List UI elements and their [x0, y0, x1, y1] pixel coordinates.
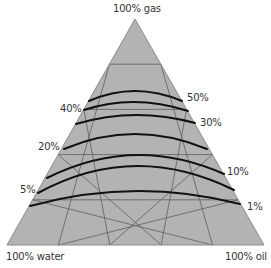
vertex-label-oil: 100% oil	[225, 252, 267, 262]
triangle-area	[7, 19, 264, 245]
curve-label-30: 30%	[200, 118, 222, 128]
curve-label-40: 40%	[60, 104, 82, 114]
vertex-label-water: 100% water	[6, 252, 64, 262]
curve-label-20: 20%	[38, 142, 60, 152]
curve-label-50: 50%	[187, 93, 209, 103]
ternary-diagram	[0, 0, 271, 268]
curve-label-1: 1%	[247, 202, 262, 212]
curve-label-5: 5%	[20, 185, 35, 195]
vertex-label-gas: 100% gas	[113, 4, 161, 14]
curve-label-10: 10%	[227, 167, 249, 177]
